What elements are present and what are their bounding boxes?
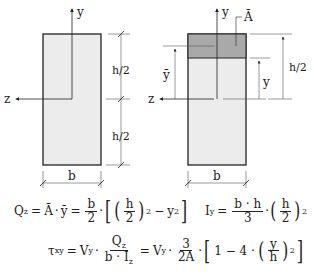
upper-half-height-label: h/2: [112, 64, 130, 77]
y-variable: y: [167, 204, 174, 218]
equals: =: [217, 204, 227, 218]
z-axis-label: z: [148, 92, 154, 106]
denominator: 2A: [176, 251, 196, 264]
v-subscript: y: [162, 246, 167, 255]
fraction-3-over-2a: 32A: [176, 238, 196, 264]
fraction-qz-over-biz: Qz b · Iz: [103, 235, 135, 267]
denominator-symbol: b · I: [105, 250, 129, 264]
v-subscript: y: [88, 246, 93, 255]
right-paren: ): [139, 200, 145, 222]
width-label: b: [68, 169, 76, 183]
width-label: b: [213, 169, 221, 183]
fraction-y-over-h: yh: [267, 238, 279, 264]
denominator: 3: [242, 212, 254, 225]
numerator: 3: [180, 238, 192, 252]
denominator: h: [267, 251, 279, 264]
y-distance-label: y: [262, 75, 270, 89]
denominator: b · Iz: [103, 251, 135, 266]
y-axis-label: y: [221, 5, 229, 19]
equals: =: [67, 244, 77, 258]
equals: =: [31, 204, 41, 218]
z-axis-label: z: [4, 92, 10, 106]
qz-symbol: Q: [14, 204, 24, 218]
left-bracket: [: [204, 238, 210, 264]
equation-tau-xy: τxy = Vy · Qz b · Iz = Vy · 32A · [ 1 − …: [48, 235, 305, 267]
dot: ·: [265, 204, 269, 218]
qz-subscript: z: [24, 207, 28, 216]
ybar: ȳ: [61, 204, 68, 218]
right-bracket: ]: [181, 198, 187, 224]
left-section: y z h/2 h/2 b: [4, 5, 130, 188]
equation-iy: Iy = b · h3 · ( h2 )2: [205, 198, 307, 224]
tau-subscript: xy: [55, 246, 64, 255]
area-abar-label: Ā: [243, 9, 253, 24]
numerator: b · h: [232, 198, 263, 212]
numerator: b: [85, 198, 97, 212]
tau-symbol: τ: [48, 244, 55, 258]
dot: ·: [55, 204, 59, 218]
y-axis-label: y: [76, 5, 84, 19]
minus: −: [154, 204, 164, 218]
one-minus-four: 1 − 4 ·: [214, 244, 255, 258]
numerator-subscript: z: [122, 241, 126, 250]
shear-force-v: V: [153, 244, 162, 258]
dot: ·: [168, 244, 172, 258]
fraction-b-over-2: b2: [85, 198, 97, 224]
right-paren: ): [295, 200, 301, 222]
denominator: 2: [124, 212, 136, 225]
exponent: 2: [302, 207, 307, 216]
fraction-h-over-2: h2: [124, 198, 136, 224]
left-paren: (: [270, 200, 276, 222]
fraction-bh-over-3: b · h3: [232, 198, 263, 224]
dot: ·: [99, 204, 103, 218]
half-height-label: h/2: [289, 61, 307, 74]
denominator: 2: [280, 212, 292, 225]
right-paren: ): [282, 240, 288, 262]
abar: Ā: [44, 204, 53, 218]
numerator: h: [280, 198, 292, 212]
left-paren: (: [114, 200, 120, 222]
dot: ·: [95, 244, 99, 258]
numerator-symbol: Q: [112, 234, 122, 248]
denominator: 2: [85, 212, 97, 225]
centroid-ybar-label: ȳ: [162, 68, 170, 82]
exponent: 2: [174, 207, 179, 216]
numerator: Qz: [110, 235, 128, 251]
equation-qz: Qz = Ā · ȳ = b2 · [ ( h2 )2 − y2 ]: [14, 198, 189, 224]
cross-section-diagram: y z h/2 h/2 b y z Ā: [0, 0, 314, 200]
lower-half-height-label: h/2: [112, 130, 130, 143]
numerator: h: [124, 198, 136, 212]
numerator: y: [268, 238, 279, 252]
left-paren: (: [258, 240, 264, 262]
fraction-h-over-2: h2: [280, 198, 292, 224]
left-bracket: [: [105, 198, 111, 224]
equals: =: [140, 244, 150, 258]
exponent: 2: [290, 246, 295, 255]
denominator-subscript: z: [129, 257, 133, 266]
exponent: 2: [146, 207, 151, 216]
iy-subscript: y: [210, 207, 215, 216]
equals: =: [70, 204, 80, 218]
dot: ·: [198, 244, 202, 258]
right-section: y z Ā ȳ y h/2 b: [148, 5, 307, 188]
right-bracket: ]: [297, 238, 303, 264]
